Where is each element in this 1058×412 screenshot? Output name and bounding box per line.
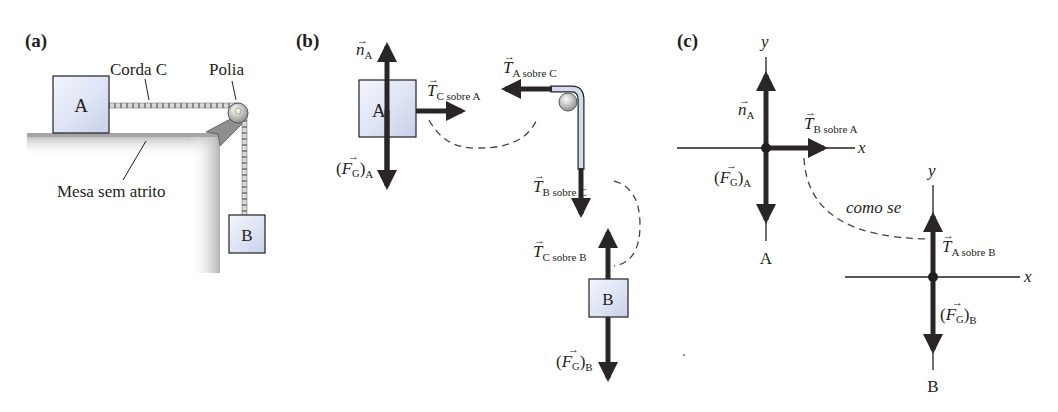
vector-arrow-glyph: → [348,150,359,162]
vector-arrow-glyph: → [428,73,439,85]
vector-arrow-glyph: → [357,34,368,46]
rope-horizontal [108,103,238,108]
vector-arrow-glyph: → [504,50,515,62]
fbd-block-a-label: A [372,100,386,121]
y-axis-b-label: y [926,161,936,180]
particle-b [928,272,938,282]
vector-arrow-glyph: → [805,106,816,118]
pulley-label: Polia [209,60,244,79]
block-b-label: B [241,226,252,245]
pulley-leader-line [232,81,236,100]
free-body-diagram-figure: (a) A B Corda C Polia Mesa sem atrito (b… [0,0,1058,412]
vector-arrow-glyph: → [952,296,963,308]
action-reaction-arc-c-b [614,181,640,266]
body-a-caption: A [760,249,773,268]
fg-a-label: (FG)A [336,159,373,180]
particle-a [761,143,771,153]
rope-vertical [242,113,247,217]
vector-arrow-glyph: → [739,94,750,106]
panel-c: (c) y x nA → TB sobre A → (FG)A → A y x [677,30,1032,396]
pulley-icon [559,93,577,111]
as-if-note: como se [846,198,902,217]
fbd-block-b-label: B [602,290,613,309]
fg-b-vector-label: (FG)B [940,305,977,326]
rope-label: Corda C [110,60,167,79]
panel-b-label: (b) [296,30,319,52]
vector-arrow-glyph: → [534,234,545,246]
vector-arrow-glyph: → [534,169,545,181]
vector-arrow-glyph: → [726,159,737,171]
panel-a-label: (a) [25,30,47,52]
body-b-caption: B [927,377,938,396]
stray-dot [683,354,685,356]
vector-arrow-glyph: → [943,229,954,241]
x-axis-b-label: x [1023,267,1032,286]
table-label: Mesa sem atrito [57,182,166,201]
fg-b-label: (FG)B [556,352,593,373]
panel-c-label: (c) [677,30,698,52]
fg-a-vector-label: (FG)A [714,168,751,189]
rope-leader-line [145,79,149,100]
y-axis-a-label: y [759,32,769,51]
x-axis-a-label: x [857,138,866,157]
panel-b: (b) A nA → (FG)A → TC sobre A → TA sobre… [296,30,685,378]
frictionless-table [27,133,220,273]
action-reaction-arc-a-c [429,119,537,148]
block-a-label: A [74,95,88,116]
vector-arrow-glyph: → [568,343,579,355]
panel-a: (a) A B Corda C Polia Mesa sem atrito [25,30,265,273]
